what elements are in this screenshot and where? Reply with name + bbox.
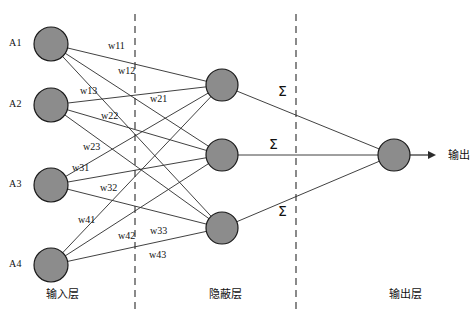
hidden-layer-label: 隐蔽层: [209, 289, 242, 300]
nodes-group: [34, 27, 410, 282]
weight-label-w21: w21: [150, 94, 167, 104]
edge-a1-h1: [68, 48, 207, 81]
weight-label-w11: w11: [108, 41, 125, 51]
input-node-label-a2: A2: [9, 99, 22, 109]
input-node-a2[interactable]: [34, 88, 68, 122]
hidden-node-h3[interactable]: [206, 212, 238, 244]
neural-network-diagram: A1 A2 A3 A4 w11 w12 w13 w21 w22 w23 w31 …: [0, 0, 473, 325]
output-node-o1[interactable]: [378, 139, 410, 171]
weight-label-w42: w42: [118, 231, 135, 241]
hidden-node-h1[interactable]: [206, 69, 238, 101]
weight-label-w41: w41: [78, 215, 95, 225]
hidden-node-h2[interactable]: [206, 139, 238, 171]
edge-a4-h3: [68, 231, 207, 261]
weight-label-w12: w12: [118, 66, 135, 76]
weight-label-w33: w33: [150, 226, 167, 236]
edge-h1-o1: [237, 91, 379, 149]
edge-a1-h2: [65, 53, 208, 146]
diagram-canvas: [0, 0, 473, 325]
weight-label-w43: w43: [149, 250, 166, 260]
input-node-a3[interactable]: [34, 168, 68, 202]
input-node-label-a3: A3: [9, 179, 22, 189]
sigma-icon-2: Σ: [269, 137, 278, 151]
sigma-icon-3: Σ: [278, 204, 287, 218]
output-arrow: [410, 151, 436, 159]
sigma-icon-1: Σ: [278, 84, 287, 98]
input-node-label-a4: A4: [9, 259, 22, 269]
edge-a4-h1: [63, 97, 211, 253]
weight-label-w22: w22: [101, 111, 118, 121]
weight-label-w32: w32: [100, 183, 117, 193]
output-arrow-label: 输出: [448, 150, 470, 161]
input-node-a1[interactable]: [34, 27, 68, 61]
edge-h3-o1: [237, 161, 380, 221]
weight-label-w23: w23: [83, 142, 100, 152]
input-layer-label: 输入层: [46, 289, 79, 300]
input-node-a4[interactable]: [34, 248, 68, 282]
output-layer-label: 输出层: [389, 289, 422, 300]
edge-a4-h2: [65, 164, 208, 256]
output-arrowhead-icon: [428, 151, 436, 159]
input-node-label-a1: A1: [9, 38, 22, 48]
edge-a1-h3: [63, 56, 212, 216]
weight-label-w31: w31: [72, 163, 89, 173]
weight-label-w13: w13: [80, 86, 97, 96]
